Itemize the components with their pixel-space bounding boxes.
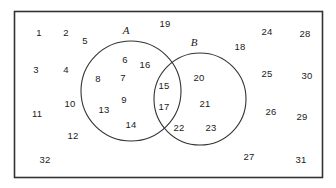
element-value: 27 — [244, 152, 255, 162]
element-value: 28 — [300, 29, 311, 39]
element-value: 30 — [302, 71, 313, 81]
element-value: 29 — [297, 112, 308, 122]
element-value: 6 — [122, 55, 127, 65]
element-value: 15 — [159, 81, 170, 91]
element-value: 5 — [82, 36, 87, 46]
element-value: 13 — [99, 105, 110, 115]
element-value: 19 — [160, 19, 171, 29]
element-value: 2 — [63, 28, 68, 38]
element-value: 12 — [68, 131, 79, 141]
element-value: 11 — [32, 109, 42, 119]
element-value: 22 — [174, 123, 185, 133]
set-a-label: A — [123, 25, 130, 36]
element-value: 17 — [159, 102, 170, 112]
element-value: 24 — [262, 27, 273, 37]
element-value: 16 — [140, 60, 151, 70]
universal-set-rectangle — [15, 12, 323, 178]
element-value: 32 — [40, 155, 51, 165]
element-value: 8 — [95, 74, 100, 84]
element-value: 26 — [266, 107, 277, 117]
element-value: 20 — [194, 73, 205, 83]
element-value: 25 — [262, 69, 273, 79]
element-value: 9 — [121, 95, 126, 105]
element-value: 10 — [65, 99, 76, 109]
element-value: 31 — [296, 155, 307, 165]
element-value: 7 — [120, 73, 125, 83]
element-value: 21 — [200, 99, 211, 109]
element-value: 3 — [33, 65, 38, 75]
element-value: 4 — [63, 65, 68, 75]
element-value: 14 — [126, 120, 137, 130]
element-value: 1 — [36, 28, 41, 38]
set-b-label: B — [191, 37, 198, 48]
element-value: 18 — [235, 42, 246, 52]
venn-diagram-figure: A B 1 2 5 19 24 28 18 3 4 25 30 11 10 26… — [0, 0, 336, 188]
element-value: 23 — [206, 123, 217, 133]
